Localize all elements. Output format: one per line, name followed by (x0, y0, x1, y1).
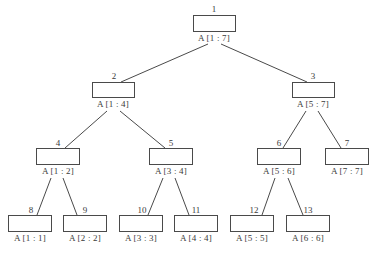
node-range-label: A [5 : 6] (263, 166, 295, 176)
node-index: 13 (304, 206, 313, 215)
node-index: 10 (138, 206, 147, 215)
node-box (325, 148, 369, 165)
node-box (193, 15, 236, 32)
node-box (230, 215, 274, 232)
node-index: 1 (212, 5, 217, 14)
node-index: 6 (277, 139, 282, 148)
node-box (149, 148, 193, 165)
node-index: 2 (112, 72, 117, 81)
node-box (119, 215, 163, 232)
node-range-label: A [2 : 2] (69, 233, 101, 243)
node-range-label: A [6 : 6] (292, 233, 324, 243)
edge-5-11 (175, 178, 189, 215)
node-box (92, 82, 135, 98)
node-range-label: A [5 : 5] (236, 233, 268, 243)
node-index: 3 (311, 72, 316, 81)
edge-5-10 (148, 178, 163, 215)
node-index: 9 (83, 206, 88, 215)
node-range-label: A [7 : 7] (331, 166, 363, 176)
edge-6-13 (288, 178, 303, 215)
node-range-label: A [5 : 7] (297, 99, 329, 109)
node-range-label: A [4 : 4] (180, 233, 212, 243)
edge-2-5 (120, 111, 165, 148)
node-box (174, 215, 218, 232)
edge-1-3 (221, 44, 307, 82)
edge-3-7 (318, 111, 341, 148)
edge-3-6 (283, 111, 306, 148)
edge-1-2 (121, 44, 208, 82)
node-index: 11 (192, 206, 201, 215)
node-index: 4 (56, 139, 61, 148)
node-range-label: A [3 : 4] (155, 166, 187, 176)
node-range-label: A [1 : 4] (97, 99, 129, 109)
node-index: 8 (29, 206, 34, 215)
node-box (292, 82, 335, 98)
edge-4-9 (63, 178, 77, 215)
edge-4-8 (37, 178, 51, 215)
node-index: 5 (169, 139, 174, 148)
edge-6-12 (262, 178, 275, 215)
node-index: 7 (345, 139, 350, 148)
node-range-label: A [1 : 7] (198, 33, 230, 43)
node-range-label: A [3 : 3] (125, 233, 157, 243)
node-box (8, 215, 52, 232)
node-range-label: A [1 : 2] (42, 166, 74, 176)
node-box (257, 148, 301, 165)
node-index: 12 (250, 206, 259, 215)
edge-2-4 (65, 111, 107, 148)
segment-tree-diagram: 1 A [1 : 7] 2 A [1 : 4] 3 A [5 : 7] 4 A … (0, 0, 377, 253)
node-box (36, 148, 80, 165)
node-box (63, 215, 107, 232)
node-range-label: A [1 : 1] (14, 233, 46, 243)
node-box (286, 215, 330, 232)
